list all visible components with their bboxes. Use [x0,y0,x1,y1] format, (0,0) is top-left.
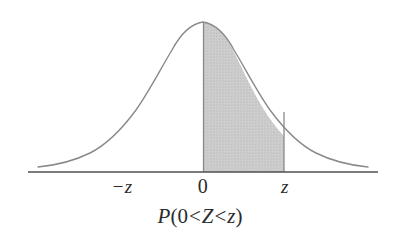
axis-label-zero: 0 [198,175,209,198]
caption-upper-bound: z [227,204,235,228]
caption-op-right: < [213,204,227,228]
caption-op-left: < [188,204,202,228]
shaded-area-group [203,18,284,172]
normal-distribution-figure: −z 0 z P(0<Z<z) [0,0,395,241]
axis-label-neg-z: −z [111,176,132,198]
caption-open-paren: ( [170,204,177,228]
caption-p: P [158,204,171,228]
axis-label-pos-z: z [281,176,289,198]
caption-variable: Z [202,204,214,228]
caption-close-paren: ) [235,204,242,228]
shaded-probability-area [203,18,284,172]
caption-lower-bound: 0 [177,204,188,228]
probability-caption: P(0<Z<z) [158,204,243,229]
